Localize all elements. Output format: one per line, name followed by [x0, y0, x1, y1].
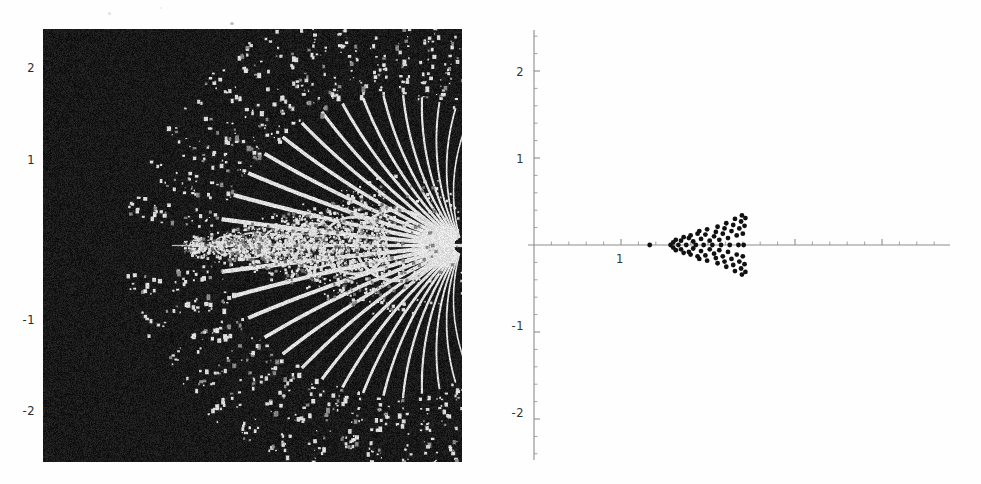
scatter-point: [736, 243, 741, 248]
scatter-axes-svg: [490, 0, 981, 484]
left-fractal-panel: 2 1 -1 -2: [0, 0, 490, 484]
right-ytick-label-neg2: -2: [498, 406, 524, 420]
scatter-point: [681, 235, 686, 240]
scatter-point: [715, 224, 720, 229]
scatter-point: [733, 217, 738, 222]
scatter-point: [681, 250, 686, 255]
scatter-point: [743, 216, 748, 221]
scatter-point: [734, 252, 739, 257]
scatter-point: [701, 243, 706, 248]
right-ytick-label-2: 2: [498, 65, 524, 79]
right-xtick-label-1: 1: [616, 252, 624, 266]
scan-speck: [160, 7, 162, 9]
scatter-point: [739, 219, 744, 224]
left-ytick-label-neg1: -1: [5, 313, 35, 327]
left-ytick-label-1: 1: [5, 153, 35, 167]
scatter-point: [742, 223, 747, 228]
scatter-point: [713, 230, 718, 235]
scatter-point: [740, 231, 745, 236]
scatter-point: [726, 236, 731, 241]
scatter-point: [724, 221, 729, 226]
scatter-point: [717, 237, 722, 242]
scatter-point: [741, 243, 746, 248]
scatter-point: [703, 253, 708, 258]
scatter-point: [726, 250, 731, 255]
scatter-point: [722, 259, 727, 264]
fractal-density-canvas: [43, 29, 462, 462]
scatter-point: [673, 248, 678, 253]
scatter-point: [688, 233, 693, 238]
scatter-point: [729, 257, 734, 262]
fractal-plot-frame: [43, 29, 462, 462]
scatter-point: [737, 259, 742, 264]
scatter-point: [699, 249, 704, 254]
scatter-point: [710, 243, 715, 248]
scatter-point: [731, 223, 736, 228]
scatter-point: [742, 262, 747, 267]
scatter-point: [737, 226, 742, 231]
scatter-point: [720, 254, 725, 259]
scatter-point: [743, 270, 748, 275]
scatter-point: [705, 258, 710, 263]
scatter-point: [712, 251, 717, 256]
scatter-point: [688, 252, 693, 257]
scatter-point: [699, 237, 704, 242]
figure-root: 2 1 -1 -2 2 1 -1 -2 1: [0, 0, 981, 484]
scatter-point: [720, 231, 725, 236]
scatter-point: [729, 229, 734, 234]
scatter-point: [719, 243, 724, 248]
scatter-point: [684, 243, 689, 248]
scatter-point: [712, 234, 717, 239]
scatter-point: [703, 232, 708, 237]
scatter-point: [697, 257, 702, 262]
right-ytick-label-neg1: -1: [498, 319, 524, 333]
scatter-point: [705, 227, 710, 232]
scatter-point: [724, 264, 729, 269]
scatter-point: [697, 229, 702, 234]
scatter-point: [693, 243, 698, 248]
scatter-point: [647, 243, 652, 248]
scatter-point: [676, 243, 681, 248]
right-scatter-panel: 2 1 -1 -2 1: [490, 0, 981, 484]
scan-speck: [108, 12, 111, 15]
scatter-point: [673, 237, 678, 242]
scatter-point: [733, 269, 738, 274]
scatter-point: [713, 256, 718, 261]
scatter-point: [731, 263, 736, 268]
left-ytick-label-2: 2: [5, 61, 35, 75]
scatter-point: [727, 243, 732, 248]
left-ytick-label-neg2: -2: [5, 404, 35, 418]
scatter-point: [739, 266, 744, 271]
scatter-point: [707, 247, 712, 252]
scatter-point: [717, 248, 722, 253]
right-ytick-label-1: 1: [498, 152, 524, 166]
scatter-point: [707, 238, 712, 243]
scan-speck: [230, 22, 234, 25]
scatter-point: [722, 226, 727, 231]
scatter-point: [740, 254, 745, 259]
scatter-point: [734, 233, 739, 238]
scatter-point: [715, 261, 720, 266]
